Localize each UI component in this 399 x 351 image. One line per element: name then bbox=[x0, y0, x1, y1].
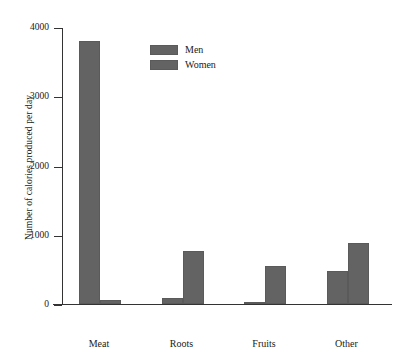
x-axis-label-meat: Meat bbox=[67, 337, 131, 351]
bar-roots-women bbox=[183, 251, 204, 304]
y-axis-tick: 3000 bbox=[54, 97, 62, 98]
legend-swatch-icon bbox=[150, 45, 178, 55]
legend-item-women: Women bbox=[150, 58, 234, 71]
x-axis-label-fruits: Fruits bbox=[232, 337, 296, 351]
legend-label: Men bbox=[185, 43, 203, 56]
bar-meat-men bbox=[79, 41, 100, 304]
y-axis-tick: 2000 bbox=[54, 167, 62, 168]
legend-item-men: Men bbox=[150, 43, 234, 56]
y-axis-tick-label: 2000 bbox=[30, 160, 49, 173]
bar-fruits-men bbox=[244, 302, 265, 304]
y-axis-tick-label: 0 bbox=[44, 298, 49, 311]
bar-meat-women bbox=[100, 300, 121, 304]
x-axis-label-roots: Roots bbox=[150, 337, 214, 351]
bar-other-men bbox=[327, 271, 348, 304]
x-axis-line bbox=[53, 304, 392, 305]
bar-roots-men bbox=[162, 298, 183, 304]
y-axis-tick: 0 bbox=[54, 305, 62, 306]
bar-fruits-women bbox=[265, 266, 286, 304]
y-axis-tick: 1000 bbox=[54, 236, 62, 237]
y-axis-tick-label: 3000 bbox=[30, 90, 49, 103]
bar-other-women bbox=[348, 243, 369, 304]
legend-swatch-icon bbox=[150, 60, 178, 70]
y-axis-tick-label: 1000 bbox=[30, 229, 49, 242]
x-axis-label-other: Other bbox=[315, 337, 379, 351]
y-axis-tick: 4000 bbox=[54, 28, 62, 29]
chart-legend: MenWomen bbox=[150, 43, 234, 73]
legend-label: Women bbox=[185, 58, 216, 71]
y-axis-tick-label: 4000 bbox=[30, 21, 49, 34]
